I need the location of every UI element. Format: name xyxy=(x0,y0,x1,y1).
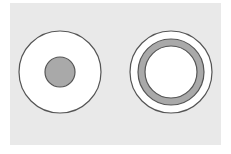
right-figure xyxy=(130,31,212,113)
right-inner-white-disc xyxy=(145,46,197,98)
left-inner-gray-disc xyxy=(45,57,75,87)
left-figure xyxy=(19,31,101,113)
diagram-canvas xyxy=(0,0,231,154)
